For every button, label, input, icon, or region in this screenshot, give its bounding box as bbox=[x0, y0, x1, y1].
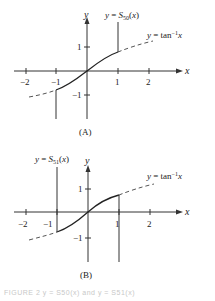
tick-label-x-neg2-a: −2 bbox=[20, 77, 30, 87]
arctan-label-b: y = tan−1x bbox=[146, 171, 182, 181]
tick-label-x-neg1-b: −1 bbox=[43, 219, 53, 229]
tick-label-y-1-b: 1 bbox=[78, 184, 83, 194]
x-axis-label-b: x bbox=[184, 206, 190, 217]
y-axis-arrow-icon bbox=[86, 165, 91, 172]
y-axis-label-a: y bbox=[83, 9, 89, 20]
panel-label-a: (A) bbox=[79, 127, 92, 137]
tick-label-x-2-b: 2 bbox=[147, 219, 152, 229]
tick-label-y-neg1-b: −1 bbox=[73, 233, 83, 243]
figure-canvas: x y −2 −1 1 2 1 −1 y = S50(x) y = tan−1x… bbox=[0, 0, 215, 301]
s50-label: y = S50(x) bbox=[104, 10, 139, 21]
tick-label-y-neg1-a: −1 bbox=[72, 90, 82, 100]
tick-label-x-neg2-b: −2 bbox=[18, 219, 28, 229]
x-axis-label-a: x bbox=[184, 65, 190, 76]
tick-label-x-neg1-a: −1 bbox=[51, 77, 61, 87]
tick-label-x-2-a: 2 bbox=[146, 77, 151, 87]
arctan-label-a: y = tan−1x bbox=[146, 30, 182, 40]
x-axis-arrow-icon bbox=[176, 210, 183, 215]
x-axis-arrow-icon bbox=[176, 69, 183, 74]
panel-b: x y −2 −1 1 2 1 −1 y = S51(x) y = tan−1x… bbox=[14, 154, 190, 280]
s51-label: y = S51(x) bbox=[34, 154, 69, 165]
tick-label-x-1-b: 1 bbox=[115, 219, 120, 229]
y-axis-label-b: y bbox=[84, 155, 90, 166]
panel-label-b: (B) bbox=[80, 270, 92, 280]
tick-label-y-1-a: 1 bbox=[77, 42, 82, 52]
figure-caption: FIGURE 2 y = S50(x) and y = S51(x) bbox=[4, 289, 135, 296]
panel-a: x y −2 −1 1 2 1 −1 y = S50(x) y = tan−1x… bbox=[14, 9, 190, 137]
arctan-curve-a bbox=[29, 41, 153, 97]
tick-label-x-1-a: 1 bbox=[115, 77, 120, 87]
